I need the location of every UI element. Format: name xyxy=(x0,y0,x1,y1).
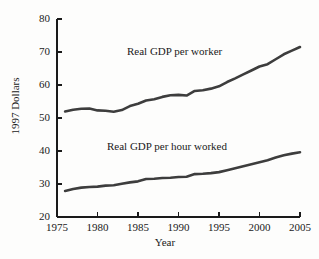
x-tick-label: 1995 xyxy=(199,221,239,233)
chart-series-lines xyxy=(65,47,300,191)
series-label-gdp-per-worker: Real GDP per worker xyxy=(127,45,222,57)
x-tick-label: 1985 xyxy=(118,221,158,233)
y-tick-label: 60 xyxy=(28,78,50,90)
chart-figure: 20304050607080 1975198019851990199520002… xyxy=(0,0,319,259)
y-axis-title: 1997 Dollars xyxy=(9,61,21,151)
x-tick-label: 1980 xyxy=(78,221,118,233)
x-tick-label: 2005 xyxy=(280,221,319,233)
x-tick-label: 2000 xyxy=(240,221,280,233)
y-tick-label: 30 xyxy=(28,177,50,189)
y-tick-label: 70 xyxy=(28,45,50,57)
series-line-1 xyxy=(65,152,300,191)
x-axis-title: Year xyxy=(140,236,190,248)
y-tick-label: 50 xyxy=(28,111,50,123)
x-tick-label: 1975 xyxy=(37,221,77,233)
y-tick-label: 40 xyxy=(28,144,50,156)
series-label-gdp-per-hour: Real GDP per hour worked xyxy=(107,140,227,152)
y-tick-label: 80 xyxy=(28,12,50,24)
x-tick-label: 1990 xyxy=(159,221,199,233)
